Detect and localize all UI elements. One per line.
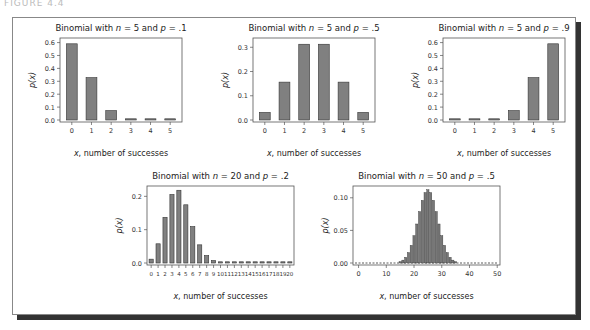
bar <box>427 190 429 263</box>
bar <box>86 78 97 120</box>
bar <box>424 193 426 263</box>
bar <box>441 236 443 263</box>
chart-n5-p09: Binomial with n = 5 and p = .90.00.10.20… <box>408 20 573 160</box>
y-tick-label: 0.4 <box>45 65 55 73</box>
bar <box>288 262 292 263</box>
x-tick-label: 1 <box>472 127 476 135</box>
bar <box>421 200 423 263</box>
bar <box>165 119 176 120</box>
bar <box>191 227 195 263</box>
x-axis-label: x, number of successes <box>266 149 361 158</box>
bar <box>232 262 236 263</box>
bar <box>438 224 440 263</box>
bar <box>205 256 209 263</box>
bar <box>253 262 257 263</box>
bar <box>338 82 349 120</box>
x-tick-label: 2 <box>302 127 306 135</box>
y-axis-label: p(x) <box>411 72 420 89</box>
y-tick-label: 0.05 <box>334 227 348 235</box>
y-tick-label: 0.0 <box>238 117 248 125</box>
x-tick-label: 50 <box>493 270 501 278</box>
chart-n5-p05: Binomial with n = 5 and p = .50.00.10.20… <box>218 20 383 160</box>
bar <box>443 245 445 263</box>
x-tick-label: 1 <box>282 127 286 135</box>
x-tick-label: 7 <box>198 271 202 277</box>
bar <box>432 200 434 263</box>
y-tick-label: 0.5 <box>45 52 55 60</box>
bar <box>446 253 448 263</box>
y-tick-label: 0.1 <box>238 92 248 100</box>
x-tick-label: 2 <box>109 127 113 135</box>
x-tick-label: 20 <box>286 271 293 277</box>
y-tick-label: 0.3 <box>45 78 55 86</box>
bar <box>469 119 480 120</box>
y-tick-label: 0.2 <box>45 91 55 99</box>
y-tick-label: 0.2 <box>238 68 248 76</box>
plot-area <box>60 38 182 122</box>
x-tick-label: 5 <box>361 127 365 135</box>
bar <box>435 212 437 263</box>
bar <box>299 44 310 120</box>
x-tick-label: 4 <box>531 127 535 135</box>
y-tick-label: 0.6 <box>428 39 438 47</box>
x-tick-label: 3 <box>512 127 516 135</box>
plot-area <box>147 186 294 265</box>
y-tick-label: 0.3 <box>238 44 248 52</box>
bar <box>508 111 519 120</box>
x-tick-label: 30 <box>438 270 446 278</box>
x-axis-label: x, number of successes <box>172 292 267 301</box>
plot-area <box>353 186 500 265</box>
bar <box>239 262 243 263</box>
x-tick-label: 5 <box>168 127 172 135</box>
x-tick-label: 4 <box>177 271 181 277</box>
bar <box>145 119 156 120</box>
bar <box>281 262 285 263</box>
bar <box>416 224 418 263</box>
x-tick-label: 3 <box>322 127 326 135</box>
bar <box>198 245 202 263</box>
bar <box>528 78 539 120</box>
chart-n50-p05: Binomial with n = 50 and p = .50.000.050… <box>318 168 508 303</box>
bar <box>407 253 409 263</box>
x-tick-label: 1 <box>156 271 160 277</box>
bar <box>225 262 229 263</box>
plot-area <box>253 38 375 122</box>
y-tick-label: 0.5 <box>428 52 438 60</box>
x-tick-label: 4 <box>148 127 152 135</box>
bar <box>413 236 415 263</box>
bar <box>149 259 153 263</box>
x-tick-label: 4 <box>341 127 345 135</box>
x-axis-label: x, number of successes <box>73 149 168 158</box>
bar <box>399 262 401 263</box>
y-tick-label: 0.0 <box>45 117 55 125</box>
bar <box>156 244 160 263</box>
bar <box>163 217 167 263</box>
y-tick-label: 0.1 <box>428 104 438 112</box>
y-tick-label: 0.1 <box>132 226 142 234</box>
x-tick-label: 40 <box>465 270 473 278</box>
x-tick-label: 1 <box>89 127 93 135</box>
x-tick-label: 0 <box>356 270 360 278</box>
bar <box>279 82 290 120</box>
y-tick-label: 0.0 <box>132 260 142 268</box>
y-axis-label: p(x) <box>321 217 330 234</box>
bar <box>170 195 174 263</box>
y-tick-label: 0.6 <box>45 39 55 47</box>
bar <box>267 262 271 263</box>
figure-header: FIGURE 4.4 <box>4 0 65 8</box>
x-tick-label: 10 <box>382 270 390 278</box>
chart-title: Binomial with n = 5 and p = .5 <box>248 23 379 33</box>
x-tick-label: 5 <box>184 271 188 277</box>
chart-n5-p01: Binomial with n = 5 and p = .10.00.10.20… <box>25 20 190 160</box>
bar <box>489 119 500 120</box>
x-tick-label: 0 <box>149 271 153 277</box>
x-tick-label: 5 <box>551 127 555 135</box>
y-tick-label: 0.2 <box>428 91 438 99</box>
x-tick-label: 2 <box>492 127 496 135</box>
bar <box>260 262 264 263</box>
x-tick-label: 6 <box>191 271 195 277</box>
x-tick-label: 9 <box>212 271 216 277</box>
bar <box>358 112 369 120</box>
bar <box>548 44 559 120</box>
y-axis-label: p(x) <box>28 72 37 89</box>
